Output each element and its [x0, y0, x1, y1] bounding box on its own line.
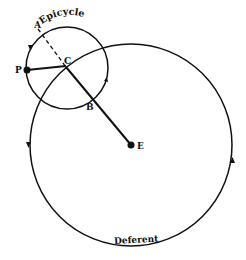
epicycle-diagram: Epicycle A C P B E Deferent: [0, 0, 246, 260]
label-point-b: B: [86, 102, 94, 112]
planet-point-p: [24, 67, 31, 74]
line-c-e: [66, 67, 131, 145]
label-point-p: P: [15, 65, 22, 75]
label-point-e: E: [137, 141, 144, 151]
line-p-c: [27, 66, 66, 70]
label-point-c: C: [64, 56, 71, 66]
label-point-a: A: [33, 20, 42, 30]
earth-point-e: [128, 142, 135, 149]
label-epicycle: Epicycle: [37, 6, 86, 26]
dashed-line-a-c: [38, 29, 66, 67]
